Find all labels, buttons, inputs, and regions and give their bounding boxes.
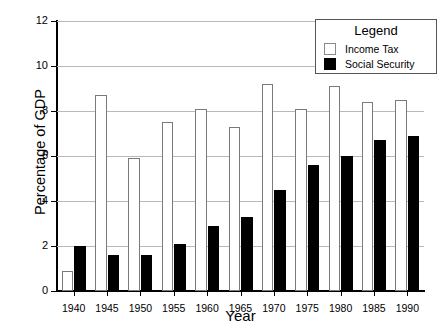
legend-entry-social-security: Social Security	[324, 57, 414, 70]
bar-social-security-1970	[274, 190, 286, 291]
x-tick-mark	[407, 291, 408, 296]
bar-social-security-1985	[374, 140, 386, 291]
y-tick-label: 0	[42, 290, 48, 291]
bar-social-security-1990	[408, 136, 420, 291]
legend-entry-label: Social Security	[345, 58, 414, 70]
bar-income-tax-1990	[395, 100, 407, 291]
bar-income-tax-1945	[95, 95, 107, 291]
bar-income-tax-1975	[295, 109, 307, 291]
x-tick-mark	[107, 291, 108, 296]
bar-income-tax-1985	[362, 102, 374, 291]
bar-income-tax-1980	[329, 86, 341, 291]
bar-income-tax-1960	[195, 109, 207, 291]
y-tick-label: 12	[36, 20, 48, 21]
bar-social-security-1960	[208, 226, 220, 291]
legend-title: Legend	[316, 23, 436, 38]
social-security-swatch	[324, 58, 336, 70]
y-tick-mark	[51, 246, 56, 247]
bar-social-security-1945	[108, 255, 120, 291]
x-tick-mark	[341, 291, 342, 296]
y-tick-mark	[51, 291, 56, 292]
bar-income-tax-1955	[162, 122, 174, 291]
bar-social-security-1950	[141, 255, 153, 291]
x-tick-mark	[140, 291, 141, 296]
bar-chart: Percentage of GDP 0246810121940194519501…	[0, 0, 442, 333]
bar-income-tax-1940	[62, 271, 74, 291]
x-tick-mark	[74, 291, 75, 296]
x-tick-mark	[307, 291, 308, 296]
legend-entry-income-tax: Income Tax	[324, 42, 399, 55]
y-tick-label: 2	[42, 245, 48, 246]
bar-social-security-1975	[308, 165, 320, 291]
y-tick-label: 8	[42, 110, 48, 111]
bar-social-security-1955	[174, 244, 186, 291]
x-tick-mark	[174, 291, 175, 296]
bar-income-tax-1950	[128, 158, 140, 291]
x-tick-mark	[207, 291, 208, 296]
bar-income-tax-1965	[229, 127, 241, 291]
y-tick-label: 4	[42, 200, 48, 201]
y-tick-mark	[51, 201, 56, 202]
y-tick-mark	[51, 156, 56, 157]
bar-social-security-1965	[241, 217, 253, 291]
y-tick-label: 6	[42, 155, 48, 156]
x-axis-title: Year	[57, 307, 424, 324]
y-tick-mark	[51, 66, 56, 67]
income-tax-swatch	[324, 43, 336, 55]
x-tick-mark	[374, 291, 375, 296]
bar-social-security-1980	[341, 156, 353, 291]
y-tick-label: 10	[36, 65, 48, 66]
y-tick-mark	[51, 21, 56, 22]
y-tick-mark	[51, 111, 56, 112]
bar-social-security-1940	[74, 246, 86, 291]
legend: Legend Income Tax Social Security	[315, 19, 437, 74]
legend-entry-label: Income Tax	[345, 43, 399, 55]
x-tick-mark	[241, 291, 242, 296]
bar-income-tax-1970	[262, 84, 274, 291]
x-tick-mark	[274, 291, 275, 296]
